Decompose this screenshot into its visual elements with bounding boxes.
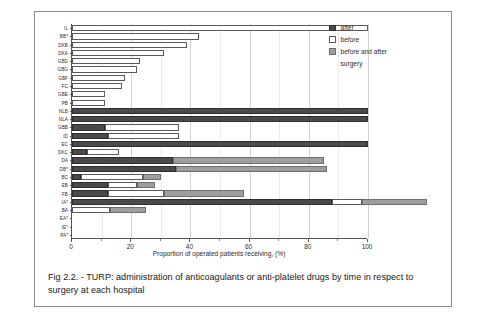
- bar-segment-after: [72, 199, 332, 205]
- chart-bar-row: FC: [72, 82, 367, 90]
- bar-segment-before: [72, 50, 164, 56]
- bar-stack: [72, 190, 244, 196]
- y-axis-label: DKB: [58, 42, 70, 47]
- figure-caption: Fig 2.2. - TURP: administration of antic…: [48, 271, 440, 296]
- x-axis-label: 40: [186, 243, 193, 250]
- y-axis-label: EA*: [60, 216, 71, 221]
- bar-segment-before: [72, 33, 199, 39]
- legend-swatch-after-icon: [329, 25, 336, 32]
- y-axis-label: GBE: [58, 92, 71, 97]
- bar-segment-after: [72, 149, 87, 155]
- y-axis-label: IE*: [62, 224, 71, 229]
- bar-segment-before: [87, 149, 120, 155]
- bar-segment-both: [143, 174, 161, 180]
- bar-segment-after: [72, 166, 176, 172]
- bar-segment-before: [332, 199, 362, 205]
- chart-bar-row: DKB: [72, 41, 367, 49]
- x-axis-label: 60: [245, 243, 252, 250]
- bar-segment-both: [137, 182, 155, 188]
- chart-bar-row: EB: [72, 181, 367, 189]
- bar-segment-after: [72, 133, 108, 139]
- bar-segment-before: [108, 190, 164, 196]
- y-axis-label: EB: [62, 183, 71, 188]
- y-axis-label: DKC: [58, 150, 71, 155]
- bar-stack: [72, 91, 105, 97]
- chart-bar-row: PA*: [72, 231, 367, 239]
- y-axis-label: IL: [64, 26, 71, 31]
- y-axis-label: DKA: [58, 50, 70, 55]
- y-axis-label: PA*: [60, 232, 70, 237]
- bar-segment-after: [72, 108, 368, 114]
- chart-bar-row: BB*: [72, 32, 367, 40]
- y-axis-label: BB*: [60, 34, 71, 39]
- legend-item-both: before and after: [329, 48, 447, 56]
- y-axis-label: NLA: [59, 117, 71, 122]
- y-axis-label: NLB: [59, 108, 71, 113]
- chart-bar-row: BA: [72, 206, 367, 214]
- chart-bar-row: DKA: [72, 49, 367, 57]
- bar-segment-before: [72, 25, 368, 31]
- bar-segment-both: [164, 190, 244, 196]
- bar-segment-before: [72, 83, 122, 89]
- y-axis-label: BC: [61, 174, 70, 179]
- chart-bar-row: EA*: [72, 214, 367, 222]
- chart-bar-row: DB*: [72, 165, 367, 173]
- bar-stack: [72, 199, 427, 205]
- bar-stack: [72, 166, 327, 172]
- chart-bar-row: GBD: [72, 57, 367, 65]
- x-axis-label: 100: [362, 243, 373, 250]
- bar-stack: [72, 207, 146, 213]
- bar-stack: [72, 25, 368, 31]
- y-axis-label: EC: [61, 141, 70, 146]
- legend-label-both: before and after: [341, 48, 388, 56]
- bar-stack: [72, 182, 155, 188]
- chart-plot-area: ILBB*DKBDKAGBDGBGGBFFCGBEPBNLBNLAGBBIDEC…: [71, 24, 367, 239]
- legend-swatch-both-icon: [329, 48, 336, 55]
- bar-stack: [72, 100, 105, 106]
- chart-bar-row: DA: [72, 156, 367, 164]
- bar-stack: [72, 124, 179, 130]
- chart-bar-row: IE*: [72, 222, 367, 230]
- bar-segment-after: [72, 190, 108, 196]
- y-axis-label: PB: [62, 100, 71, 105]
- bar-stack: [72, 116, 368, 122]
- x-axis-label: 20: [127, 243, 134, 250]
- legend-label-before: before: [341, 36, 360, 44]
- bar-stack: [72, 133, 179, 139]
- chart-bar-row: IA*: [72, 198, 367, 206]
- chart-bar-row: IL: [72, 24, 367, 32]
- bar-segment-after: [72, 182, 108, 188]
- bar-segment-both: [362, 199, 427, 205]
- chart-bar-row: DKC: [72, 148, 367, 156]
- chart-bar-row: PB: [72, 98, 367, 106]
- bar-stack: [72, 58, 140, 64]
- x-axis-tick-minor: [219, 239, 220, 241]
- bar-stack: [72, 66, 137, 72]
- chart-bar-row: GBG: [72, 65, 367, 73]
- y-axis-label: DB*: [60, 166, 71, 171]
- chart-bar-rows: ILBB*DKBDKAGBDGBGGBFFCGBEPBNLBNLAGBBIDEC…: [72, 24, 367, 238]
- bar-segment-before: [72, 66, 137, 72]
- bar-segment-before: [81, 174, 143, 180]
- chart-bar-row: ID: [72, 132, 367, 140]
- chart-plot-wrapper: ILBB*DKBDKAGBDGBGGBFFCGBEPBNLBNLAGBBIDEC…: [35, 12, 453, 262]
- bar-stack: [72, 108, 368, 114]
- bar-stack: [72, 157, 324, 163]
- chart-bar-row: GBF: [72, 74, 367, 82]
- y-axis-label: ID: [63, 133, 70, 138]
- chart-x-axis-title: Proportion of operated patients receivin…: [71, 250, 367, 257]
- y-axis-label: FC: [62, 84, 71, 89]
- chart-bar-row: NLA: [72, 115, 367, 123]
- x-axis-tick-minor: [278, 239, 279, 241]
- bar-stack: [72, 141, 368, 147]
- bar-segment-both: [176, 166, 327, 172]
- chart-bar-row: GBB: [72, 123, 367, 131]
- y-axis-label: GBB: [58, 125, 71, 130]
- bar-segment-after: [72, 116, 368, 122]
- y-axis-label: GBF: [58, 75, 70, 80]
- legend-label-after: after: [341, 24, 354, 32]
- bar-segment-both: [110, 207, 146, 213]
- bar-stack: [72, 149, 119, 155]
- bar-segment-before: [108, 133, 179, 139]
- bar-stack: [72, 174, 161, 180]
